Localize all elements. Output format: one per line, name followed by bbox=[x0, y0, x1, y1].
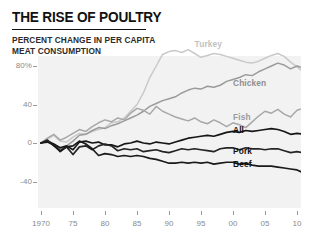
series-label-pork: Pork bbox=[233, 146, 252, 156]
x-axis-tick bbox=[265, 211, 266, 215]
series-label-fish: Fish bbox=[233, 112, 251, 122]
x-axis-tick bbox=[105, 211, 106, 215]
y-axis-label: 0 bbox=[2, 138, 32, 147]
y-axis-tick bbox=[33, 105, 37, 106]
y-axis-label: 80% bbox=[2, 61, 32, 70]
page-title: THE RISE OF POULTRY bbox=[12, 9, 161, 25]
y-axis-tick bbox=[33, 143, 37, 144]
x-axis-label: 10 bbox=[284, 219, 309, 228]
x-axis-tick bbox=[233, 211, 234, 215]
series-label-turkey: Turkey bbox=[195, 39, 222, 49]
series-label-chicken: Chicken bbox=[233, 78, 266, 88]
x-axis-tick bbox=[201, 211, 202, 215]
y-axis-label: -40 bbox=[2, 177, 32, 186]
y-axis-tick bbox=[33, 66, 37, 67]
x-axis-tick bbox=[73, 211, 74, 215]
chart-subtitle: PERCENT CHANGE IN PER CAPITA MEAT CONSUM… bbox=[12, 35, 182, 56]
x-axis-label: 00 bbox=[220, 219, 246, 228]
x-axis-label: 1970 bbox=[28, 219, 54, 228]
series-label-beef: Beef bbox=[233, 159, 252, 169]
x-axis-label: 80 bbox=[92, 219, 118, 228]
x-axis-label: 95 bbox=[188, 219, 214, 228]
chart-page: THE RISE OF POULTRY PERCENT CHANGE IN PE… bbox=[0, 0, 309, 250]
x-axis-tick bbox=[297, 211, 298, 215]
x-axis-label: 85 bbox=[124, 219, 150, 228]
x-axis-tick bbox=[41, 211, 42, 215]
x-axis-label: 75 bbox=[60, 219, 86, 228]
x-axis-tick bbox=[169, 211, 170, 215]
series-label-all: All bbox=[233, 125, 244, 135]
x-axis-tick bbox=[137, 211, 138, 215]
title-divider bbox=[12, 29, 146, 30]
y-axis-tick bbox=[33, 182, 37, 183]
x-axis-label: 05 bbox=[252, 219, 278, 228]
x-axis-label: 90 bbox=[156, 219, 182, 228]
y-axis-label: 40 bbox=[2, 100, 32, 109]
